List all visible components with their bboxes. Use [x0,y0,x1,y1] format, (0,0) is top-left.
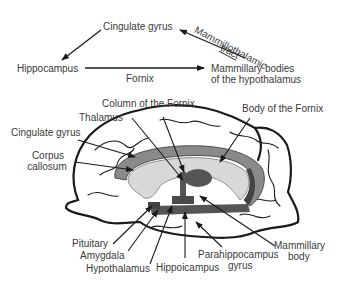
thalamus-shape [184,169,212,187]
edge-fornix-label: Fornix [126,73,154,84]
hypothalamus-shape [172,196,194,204]
label-column-of-fornix: Column of the Fornix [102,98,195,109]
label-pituitary: Pituitary [72,238,108,249]
node-hippocampus: Hippocampus [17,63,78,74]
label-hypothalamus: Hypothalamus [86,263,150,274]
label-thalamus: Thalamus [79,112,123,123]
label-parahippocampus-line1: Parahippocampus [198,249,279,260]
label-hippocampus: Hippoicampus [156,262,219,273]
node-mammillary-bodies-line2: of the hypothalamus [211,74,301,85]
label-parahippocampus-line2: gyrus [228,260,252,271]
label-mammillary-line2: body [288,251,310,262]
label-body-of-fornix: Body of the Fornix [242,103,323,114]
label-cingulate-gyrus: Cingulate gyrus [11,127,80,138]
label-amygdala: Amygdala [80,250,124,261]
node-cingulate-gyrus: Cingulate gyrus [103,21,172,32]
arrow-cingulate-to-hippocampus [62,30,101,60]
label-corpus-callosum-line1: Corpus [26,150,70,161]
label-mammillary-line1: Mammillary [274,240,325,251]
label-corpus-callosum-line2: callosum [22,161,72,172]
